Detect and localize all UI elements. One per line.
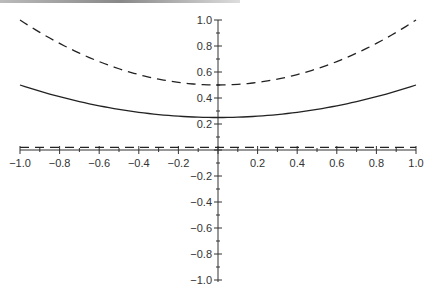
y-tick-label: 0.8 — [197, 40, 212, 52]
x-tick-label: 0.6 — [329, 157, 344, 169]
y-tick-label: 0.4 — [197, 92, 212, 104]
x-tick-label: 0.2 — [250, 157, 265, 169]
x-tick-label: −0.6 — [88, 157, 110, 169]
x-tick-label: −0.4 — [128, 157, 150, 169]
x-tick-label: −0.2 — [168, 157, 190, 169]
x-tick-label: 0.8 — [369, 157, 384, 169]
x-tick-label: −0.8 — [49, 157, 71, 169]
y-tick-label: 1.0 — [197, 14, 212, 26]
y-tick-label: −0.4 — [190, 196, 212, 208]
x-tick-label: −1.0 — [9, 157, 31, 169]
x-tick-label: 1.0 — [408, 157, 423, 169]
x-tick-label: 0.4 — [290, 157, 305, 169]
y-tick-label: −1.0 — [190, 274, 212, 286]
y-tick-label: 0.2 — [197, 118, 212, 130]
y-tick-label: 0.6 — [197, 66, 212, 78]
y-tick-label: −0.2 — [190, 170, 212, 182]
line-chart: −1.0−0.8−0.6−0.4−0.20.20.40.60.81.01.00.… — [0, 0, 436, 301]
y-tick-label: −0.6 — [190, 222, 212, 234]
y-tick-label: −0.8 — [190, 248, 212, 260]
